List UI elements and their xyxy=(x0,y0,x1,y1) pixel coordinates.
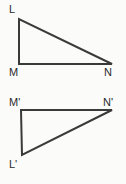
vertex-label-n: N xyxy=(104,67,112,78)
vertex-label-n-prime: N' xyxy=(103,97,113,108)
geometry-figure: L M N M' N' L' xyxy=(0,0,126,184)
triangle-lmn-prime-shape xyxy=(21,110,112,155)
triangle-lmn-shape xyxy=(19,19,112,64)
vertex-label-m-prime: M' xyxy=(9,97,20,108)
vertex-label-l-prime: L' xyxy=(9,159,17,170)
vertex-label-l: L xyxy=(9,4,15,15)
vertex-label-m: M xyxy=(9,67,18,78)
triangles-svg xyxy=(0,0,126,184)
